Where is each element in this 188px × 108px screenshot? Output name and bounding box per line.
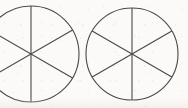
right-circle-group	[86, 8, 178, 100]
left-circle-divider-diagonal-up	[0, 30, 73, 78]
left-circle-outline	[0, 6, 79, 102]
left-circle-divider-diagonal-down	[0, 30, 73, 78]
fraction-circles-figure	[0, 0, 188, 108]
figure-canvas	[0, 0, 188, 108]
left-circle-group	[0, 6, 79, 102]
